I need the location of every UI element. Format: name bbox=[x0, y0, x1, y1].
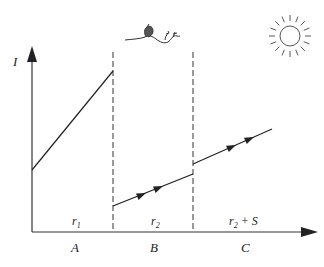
current-line-b bbox=[113, 174, 193, 206]
region-letter-b: B bbox=[150, 240, 158, 255]
current-line-a bbox=[32, 71, 113, 170]
svg-text:r1: r1 bbox=[72, 214, 81, 230]
svg-text:r2 + S: r2 + S bbox=[229, 214, 258, 230]
diagram-canvas: I r1 r2 r2 + S A B C bbox=[0, 0, 324, 267]
region-letter-c: C bbox=[241, 240, 250, 255]
resistance-label-b: r2 bbox=[151, 214, 160, 230]
current-line-c bbox=[193, 129, 272, 164]
resistance-label-c: r2 + S bbox=[229, 214, 258, 230]
bird-on-branch-icon bbox=[125, 24, 180, 43]
x-axis bbox=[32, 227, 318, 237]
y-axis-label: I bbox=[12, 54, 18, 69]
region-letter-a: A bbox=[70, 240, 79, 255]
resistance-label-a: r1 bbox=[72, 214, 81, 230]
sun-icon bbox=[269, 15, 311, 57]
y-axis bbox=[27, 46, 37, 232]
svg-text:r2: r2 bbox=[151, 214, 160, 230]
